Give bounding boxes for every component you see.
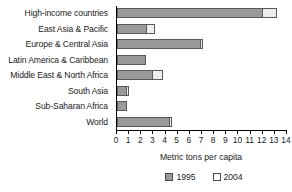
x-axis-tick <box>165 130 166 134</box>
x-axis-title: Metric tons per capita <box>116 152 286 162</box>
x-axis-tick <box>140 130 141 134</box>
bar-1995 <box>117 86 127 96</box>
x-axis-tick-label: 0 <box>114 135 119 145</box>
x-axis-tick-label: 3 <box>150 135 155 145</box>
category-label: Middle East & North Africa <box>0 68 112 84</box>
x-axis-tick-label: 5 <box>174 135 179 145</box>
x-axis-tick-label: 13 <box>269 135 278 145</box>
x-axis-tick-label: 10 <box>233 135 242 145</box>
x-axis-tick-label: 8 <box>211 135 216 145</box>
category-axis-labels: High-income countries East Asia & Pacifi… <box>0 6 112 130</box>
x-axis-tick <box>213 130 214 134</box>
x-axis-tick <box>177 130 178 134</box>
x-axis-tick-label: 11 <box>245 135 254 145</box>
bar-row <box>117 99 287 115</box>
bar-row <box>117 53 287 69</box>
outlined-white-swatch-icon <box>213 173 221 181</box>
bar-row <box>117 6 287 22</box>
category-label: Sub-Saharan Africa <box>0 99 112 115</box>
bar-row <box>117 22 287 38</box>
category-label: Latin America & Caribbean <box>0 53 112 69</box>
bar-row <box>117 84 287 100</box>
x-axis-tick <box>250 130 251 134</box>
x-axis-tick <box>152 130 153 134</box>
legend-item-1995: 1995 <box>165 172 195 182</box>
bar-1995 <box>117 24 147 34</box>
x-axis-tick-label: 9 <box>223 135 228 145</box>
x-axis-tick-label: 4 <box>162 135 167 145</box>
x-axis-tick-label: 2 <box>138 135 143 145</box>
legend-label: 2004 <box>224 172 243 182</box>
chart-legend: 1995 2004 <box>116 172 292 182</box>
x-axis-tick-label: 14 <box>281 135 290 145</box>
x-axis-tick-label: 6 <box>187 135 192 145</box>
x-axis-tick <box>225 130 226 134</box>
x-axis-tick <box>116 130 117 134</box>
legend-label: 1995 <box>176 172 195 182</box>
category-label: East Asia & Pacific <box>0 22 112 38</box>
x-axis-tick <box>201 130 202 134</box>
bar-1995 <box>117 39 201 49</box>
category-label: World <box>0 115 112 131</box>
bar-1995 <box>117 55 146 65</box>
bar-row <box>117 68 287 84</box>
bar-row <box>117 37 287 53</box>
x-axis-tick <box>237 130 238 134</box>
bar-1995 <box>117 8 263 18</box>
bar-chart: High-income countries East Asia & Pacifi… <box>0 0 292 192</box>
bar-row <box>117 115 287 131</box>
x-axis-tick-labels: 01234567891011121314 <box>116 135 286 147</box>
category-label: South Asia <box>0 84 112 100</box>
category-label: Europe & Central Asia <box>0 37 112 53</box>
category-label: High-income countries <box>0 6 112 22</box>
x-axis-tick <box>262 130 263 134</box>
x-axis-tick-label: 12 <box>257 135 266 145</box>
bar-1995 <box>117 117 170 127</box>
bar-1995 <box>117 101 127 111</box>
plot-area <box>116 6 287 130</box>
x-axis-tick <box>274 130 275 134</box>
x-axis-tick-label: 7 <box>199 135 204 145</box>
filled-gray-swatch-icon <box>165 173 173 181</box>
x-axis-tick-label: 1 <box>126 135 131 145</box>
x-axis-ticks <box>116 130 286 134</box>
legend-item-2004: 2004 <box>213 172 243 182</box>
x-axis-tick <box>189 130 190 134</box>
x-axis-tick <box>286 130 287 134</box>
bar-1995 <box>117 70 153 80</box>
x-axis-tick <box>128 130 129 134</box>
